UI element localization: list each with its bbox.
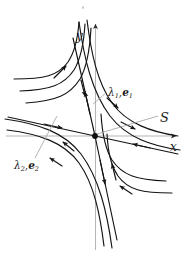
- arrow-ul-1: [54, 66, 66, 78]
- eigen2-lambda: λ: [14, 159, 21, 171]
- axes-group: [6, 24, 176, 250]
- separatrix-group: [8, 38, 178, 240]
- eigen1-lambda: λ: [108, 86, 115, 98]
- arrow-unstable-out-up: [85, 92, 90, 114]
- arrow-stable-in-right: [133, 144, 150, 148]
- system-label: S: [160, 111, 169, 124]
- eigen2-label: λ2,e2: [14, 160, 39, 172]
- phase-portrait-figure: [0, 0, 186, 256]
- trajectory-lower-right-1: [107, 134, 172, 193]
- trajectory-lower-right-2: [101, 114, 166, 181]
- equilibrium-point: [92, 133, 98, 139]
- eigen2-vector: e: [28, 159, 35, 171]
- y-axis-label: y: [76, 30, 83, 42]
- trajectory-upper-left-1: [14, 22, 79, 79]
- eigen1-vector: e: [122, 86, 129, 98]
- eigen1-label: λ1,e1: [108, 87, 133, 99]
- arrow-ll-1: [63, 142, 74, 151]
- eigen2-vector-sub: 2: [35, 165, 39, 173]
- arrow-unstable-out-down: [100, 160, 105, 184]
- trajectory-group: [5, 20, 180, 248]
- eigen1-vector-sub: 1: [129, 92, 133, 100]
- x-axis-label: x: [170, 141, 177, 153]
- arrow-ll-2: [50, 158, 62, 166]
- scan-artifact-speck: [82, 6, 84, 9]
- leader-eigen2: [35, 116, 57, 158]
- trajectory-lower-left-1: [7, 130, 104, 246]
